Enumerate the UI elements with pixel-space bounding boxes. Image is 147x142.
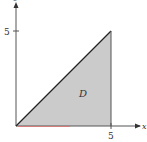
y-axis-label: y [13, 0, 19, 1]
region-label: D [78, 88, 87, 99]
x-tick-label: 5 [108, 131, 114, 141]
y-axis-arrow-icon [14, 2, 19, 8]
region-diagram: 5 5 x y D [0, 0, 147, 142]
x-axis-arrow-icon [135, 124, 141, 129]
y-tick-label: 5 [4, 27, 10, 37]
x-axis-label: x [142, 122, 147, 131]
